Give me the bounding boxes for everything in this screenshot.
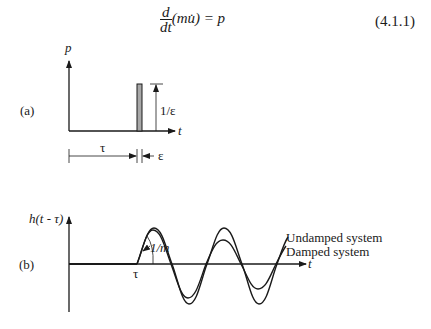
pulse-height-label: 1/ε xyxy=(160,103,176,119)
epsilon-label: ε xyxy=(158,148,163,164)
figure-b-panel-label: (b) xyxy=(19,257,34,273)
figure-a-x-label: t xyxy=(178,123,182,139)
tau-label: τ xyxy=(100,140,105,156)
figure-b-tau-label: τ xyxy=(133,266,138,282)
figure-a-panel-label: (a) xyxy=(20,103,34,119)
slope-label: 1/m xyxy=(150,240,170,256)
pulse-bar xyxy=(137,84,142,131)
tau-dimension xyxy=(69,149,154,163)
figure-b-y-label: h(t - τ) xyxy=(29,211,63,227)
legend-damped: Damped system xyxy=(286,244,369,260)
figure-a-axes xyxy=(69,61,175,131)
figure-a-y-label: p xyxy=(65,40,72,56)
